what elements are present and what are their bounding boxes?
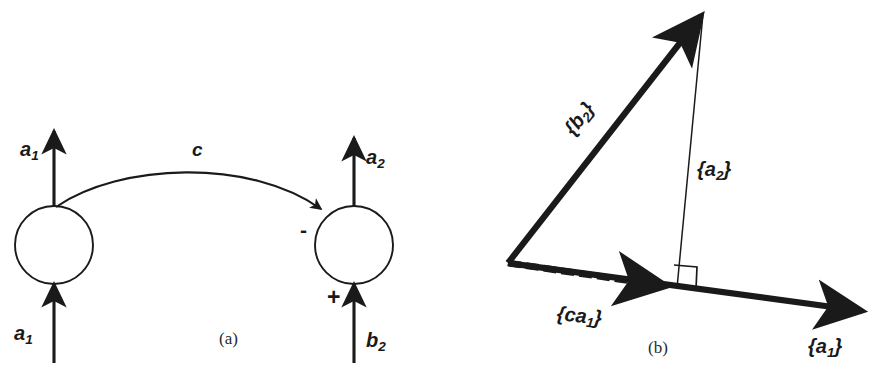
label-right-input-sub: 2 [378, 339, 386, 354]
vector-b2-arrow [508, 16, 701, 263]
label-gain-c: c [192, 140, 203, 159]
label-right-output: a2 [366, 147, 385, 170]
vector-a2-line [677, 14, 703, 288]
sign-positive: + [327, 286, 340, 309]
caption-panel-b: (b) [648, 339, 668, 356]
figure-container: a1 a1 c - + a2 b2 (a) {b2} {a2} {ca1} {a… [0, 0, 887, 377]
label-right-input-base: b [366, 329, 378, 351]
gain-arc [56, 172, 321, 209]
label-vector-a2-base: {a [697, 158, 716, 180]
label-right-input: b2 [366, 330, 386, 353]
label-left-input-base: a [14, 322, 25, 344]
node-right-circle [315, 206, 393, 284]
label-vector-a2: {a2} [697, 159, 731, 182]
label-left-input-sub: 1 [25, 332, 33, 347]
label-vector-ca1: {ca1} [556, 303, 604, 331]
diagram-artwork [0, 0, 887, 377]
label-vector-a2-close: } [723, 158, 731, 180]
label-left-output-sub: 1 [31, 148, 39, 163]
label-vector-a1-base: {a [808, 335, 827, 357]
node-left-circle [15, 206, 93, 284]
label-left-output: a1 [20, 139, 39, 162]
label-left-input: a1 [14, 323, 33, 346]
label-right-output-sub: 2 [377, 156, 385, 171]
label-right-output-base: a [366, 146, 377, 168]
label-vector-a1-close: } [834, 335, 842, 357]
label-vector-ca1-base: {ca [556, 302, 588, 327]
caption-panel-a: (a) [219, 330, 238, 347]
label-left-output-base: a [20, 138, 31, 160]
sign-negative: - [300, 219, 307, 240]
label-vector-a1: {a1} [808, 336, 842, 359]
vector-ca1-arrow [508, 263, 666, 286]
